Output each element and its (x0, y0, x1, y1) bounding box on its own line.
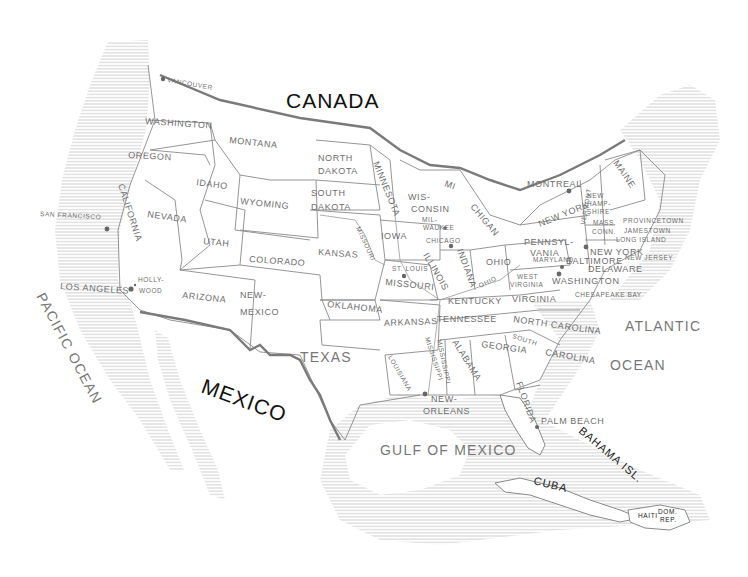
palm-beach-dot (535, 425, 539, 429)
label-wyoming: WYOMING (240, 196, 290, 211)
vancouver-dot (161, 77, 165, 81)
label-oklahoma: OKLAHOMA (327, 299, 384, 315)
label-long-island: LONG ISLAND (616, 236, 666, 243)
label-new-orleans-2: ORLEANS (423, 406, 470, 416)
label-new-hampshire-3: SHIRE (587, 208, 610, 215)
label-milwaukee-2: WAUKEE (423, 224, 455, 231)
label-dom-rep-2: REP. (660, 516, 677, 523)
label-texas: TEXAS (300, 349, 352, 365)
new-york-dot (584, 245, 589, 250)
label-connecticut: CONN. (592, 228, 616, 235)
label-arizona: ARIZONA (182, 290, 227, 305)
label-indiana: INDIANA (455, 247, 478, 289)
label-ohio-river: OHIO (477, 275, 497, 289)
label-north-dakota-2: DAKOTA (318, 166, 358, 176)
label-colorado: COLORADO (249, 254, 306, 268)
label-wisconsin-2: CONSIN (411, 204, 450, 214)
label-alabama: ALABAMA (450, 338, 483, 383)
label-atlantic: ATLANTIC (625, 318, 701, 334)
label-louisiana: LOUISIANA (387, 354, 413, 392)
label-idaho: IDAHO (196, 177, 229, 191)
label-new-hampshire-2: HAMP- (587, 200, 611, 207)
label-missouri: MISSOURI (385, 277, 435, 292)
label-pennsylvania-1: PENNSYL- (524, 237, 574, 247)
label-chicago: CHICAGO (426, 237, 461, 244)
label-michigan-1: MI (443, 178, 457, 191)
label-washington: WASHINGTON (145, 116, 213, 131)
label-baltimore: BALTIMORE (566, 256, 623, 266)
label-minnesota: MINNESOTA (371, 160, 402, 218)
label-nevada: NEVADA (147, 209, 188, 224)
st-louis-dot (402, 274, 406, 278)
chicago-dot (449, 244, 453, 248)
san-francisco-dot (105, 227, 110, 232)
label-arkansas: ARKANSAS (384, 316, 438, 328)
canada-border (160, 75, 625, 190)
label-montreal: MONTREAL (527, 179, 582, 189)
label-dom-rep-1: DOM. (658, 508, 677, 515)
label-kansas: KANSAS (318, 247, 359, 260)
label-provincetown: PROVINCETOWN (623, 217, 684, 224)
label-maine: MAINE (611, 158, 637, 190)
us-map: CANADA MEXICO PACIFIC OCEAN ATLANTIC OCE… (0, 0, 748, 577)
label-virginia: VIRGINIA (512, 294, 556, 304)
label-jamestown: JAMESTOWN (624, 227, 671, 234)
baltimore-dot (560, 265, 564, 269)
label-missouri-river: MISSOURI (355, 225, 377, 261)
label-iowa: IOWA (381, 231, 407, 241)
label-st-louis: ST. LOUIS (392, 265, 428, 272)
label-hollywood-2: WOOD (139, 287, 162, 294)
baja-hatching (155, 330, 225, 500)
label-utah: UTAH (203, 236, 230, 249)
label-new-mexico-2: MEXICO (240, 307, 279, 317)
label-canada: CANADA (286, 89, 380, 112)
label-massachusetts: MASS. (593, 219, 616, 226)
label-north-dakota-1: NORTH (318, 153, 353, 163)
pacific-coast-hatching (55, 40, 184, 470)
label-milwaukee-1: MIL- (422, 216, 437, 223)
label-washington-dc: WASHINGTON (552, 276, 620, 286)
label-atlantic-ocean: OCEAN (610, 357, 666, 373)
new-orleans-dot (423, 392, 428, 397)
montreal-dot (567, 189, 572, 194)
hollywood-dot (134, 284, 136, 286)
label-west-virginia-2: VIRGINIA (510, 281, 543, 288)
label-west-virginia-1: WEST (517, 273, 538, 280)
label-palm-beach: PALM BEACH (541, 416, 604, 426)
label-pennsylvania-2: VANIA (530, 248, 559, 258)
label-gulf-of-mexico: GULF OF MEXICO (380, 442, 517, 458)
label-south-dakota-2: DAKOTA (311, 202, 351, 212)
label-mexico: MEXICO (199, 374, 290, 426)
label-new-orleans-1: NEW- (431, 394, 457, 404)
label-chesapeake-bay: CHESAPEAKE BAY (575, 291, 642, 298)
label-wisconsin-1: WIS- (408, 192, 430, 202)
label-south-dakota-1: SOUTH (311, 188, 346, 198)
label-hollywood-1: HOLLY- (138, 276, 164, 283)
label-montana: MONTANA (229, 135, 278, 150)
label-kentucky: KENTUCKY (448, 296, 502, 306)
label-new-hampshire-1: NEW (587, 192, 604, 199)
label-tennessee: TENNESSEE (437, 314, 497, 324)
label-new-mexico-1: NEW- (240, 290, 266, 300)
label-ohio: OHIO (486, 257, 511, 267)
label-haiti: HAITI (638, 512, 658, 519)
